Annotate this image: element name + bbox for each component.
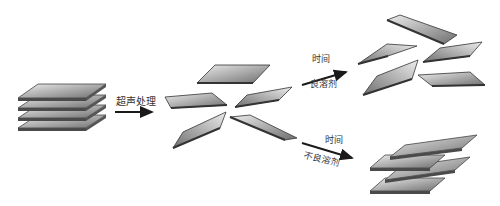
poor-solvent-time-label: 时间 xyxy=(325,136,343,145)
diagram-canvas xyxy=(0,0,500,206)
good-solvent-label: 良溶剂 xyxy=(310,80,337,89)
stable-dispersion xyxy=(358,15,485,95)
restacked-layers xyxy=(370,135,477,194)
good-solvent-time-label: 时间 xyxy=(312,55,330,64)
sonication-label: 超声处理 xyxy=(116,97,156,107)
exfoliated-sheets xyxy=(165,65,297,148)
stacked-layers xyxy=(18,84,106,131)
